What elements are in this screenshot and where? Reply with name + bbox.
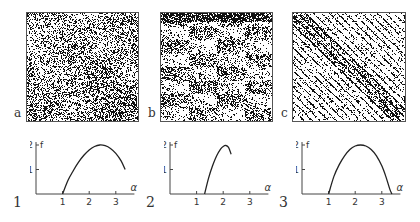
spectrum-plot-2: 12312fα bbox=[164, 138, 279, 212]
f-alpha-curve bbox=[63, 145, 126, 194]
x-tick-label: 2 bbox=[352, 197, 358, 207]
x-axis-label: α bbox=[130, 182, 137, 193]
panel-b-pattern bbox=[160, 12, 273, 122]
plot-1-label: 1 bbox=[13, 194, 22, 210]
f-alpha-curve bbox=[329, 145, 392, 194]
x-tick-label: 1 bbox=[60, 197, 66, 207]
plot-3-label: 3 bbox=[279, 194, 288, 210]
x-tick-label: 3 bbox=[113, 197, 119, 207]
x-tick-label: 2 bbox=[86, 197, 92, 207]
dot-pattern-c bbox=[293, 13, 405, 121]
spectrum-plot-1: 12312fα bbox=[30, 138, 145, 212]
y-tick-label: 2 bbox=[30, 140, 33, 150]
y-tick-label: 1 bbox=[164, 165, 167, 175]
panel-c-pattern bbox=[292, 12, 406, 122]
x-tick-label: 1 bbox=[326, 197, 332, 207]
x-tick-label: 3 bbox=[379, 197, 385, 207]
panel-c-label: c bbox=[281, 106, 288, 120]
spectrum-plot-3: 12312fα bbox=[296, 138, 416, 212]
y-tick-label: 2 bbox=[164, 140, 167, 150]
y-tick-label: 1 bbox=[30, 165, 33, 175]
x-axis-label: α bbox=[396, 182, 403, 193]
panel-a-pattern bbox=[26, 12, 139, 122]
plot-2-label: 2 bbox=[146, 194, 155, 210]
f-alpha-curve bbox=[205, 145, 232, 194]
y-axis-label: f bbox=[306, 140, 310, 150]
y-axis-label: f bbox=[40, 140, 44, 150]
dot-pattern-b bbox=[161, 13, 272, 121]
y-tick-label: 1 bbox=[296, 165, 299, 175]
x-tick-label: 1 bbox=[194, 197, 200, 207]
panel-a-label: a bbox=[14, 106, 21, 120]
y-axis-label: f bbox=[174, 140, 178, 150]
x-tick-label: 2 bbox=[220, 197, 226, 207]
y-tick-label: 2 bbox=[296, 140, 299, 150]
panel-b-label: b bbox=[148, 106, 156, 120]
x-tick-label: 3 bbox=[247, 197, 253, 207]
dot-pattern-a bbox=[27, 13, 138, 121]
x-axis-label: α bbox=[264, 182, 271, 193]
